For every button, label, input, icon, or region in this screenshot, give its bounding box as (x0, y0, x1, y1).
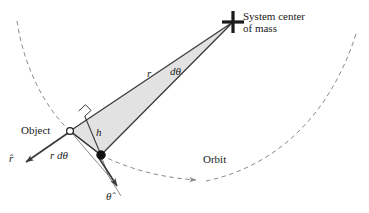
orbital-geometry-figure: System center of mass Object Orbit r dθ … (0, 0, 369, 213)
filled-dot-icon-swept-point (97, 151, 105, 159)
orbit-arc-left-dashed (17, 21, 70, 131)
label-system-center-line2: of mass (243, 22, 305, 34)
label-system-center-of-mass: System center of mass (243, 10, 305, 35)
theta-hat-arrow (99, 158, 117, 186)
label-object: Object (21, 124, 50, 136)
label-theta-hat-unit-vector: θ̂ (106, 190, 111, 202)
open-circle-icon-object (67, 128, 74, 135)
label-height-h: h (96, 126, 102, 138)
figure-canvas (0, 0, 369, 213)
swept-area-triangle (70, 22, 233, 155)
label-d-theta: dθ (170, 65, 181, 77)
label-arc-length-r-dtheta: r dθ (50, 149, 68, 161)
label-orbit: Orbit (203, 153, 226, 165)
orbit-arc-right-dashed (206, 34, 356, 181)
orbit-arc-direction-dashed (101, 155, 196, 180)
label-r-hat-unit-vector: r̂ (9, 152, 13, 164)
right-angle-marker (79, 105, 92, 111)
label-system-center-line1: System center (243, 10, 305, 22)
label-radius-r: r (147, 67, 151, 79)
right-angle-marker-closing (85, 110, 91, 116)
